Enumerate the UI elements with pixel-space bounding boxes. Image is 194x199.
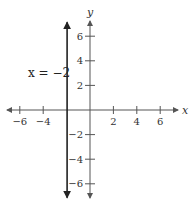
y-tick-label: 2 <box>77 80 83 91</box>
x-ticks: −6−4246 <box>12 106 163 127</box>
x-tick-label: 6 <box>157 116 163 127</box>
equation-label: x = −2 <box>28 66 70 80</box>
x-tick-label: −6 <box>12 116 27 127</box>
y-tick-label: −4 <box>68 154 83 165</box>
y-axis-label: y <box>86 6 94 19</box>
y-tick-label: −6 <box>68 178 83 189</box>
x-tick-label: −4 <box>36 116 51 127</box>
y-tick-label: 4 <box>77 55 83 66</box>
x-tick-label: 2 <box>110 116 116 127</box>
y-tick-label: 6 <box>77 31 83 42</box>
x-axis-label: x <box>182 104 189 117</box>
axes: x y <box>7 6 189 198</box>
x-tick-label: 4 <box>134 116 140 127</box>
coordinate-plane: x y −6−4246 642−2−4−6 x = −2 <box>0 0 194 199</box>
y-tick-label: −2 <box>68 129 83 140</box>
